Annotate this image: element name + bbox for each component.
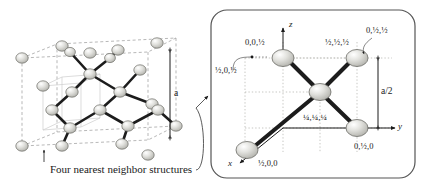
atom-label-quarter-quarter-quarter: ¼,¼,¼: [303, 113, 327, 122]
figure-caption: Four nearest neighbor structures: [50, 164, 192, 175]
lattice-constant-label: a: [174, 89, 178, 99]
bottom-right-atom: [346, 120, 368, 137]
inner-sub-cell: [43, 74, 100, 130]
top-left-atom: [272, 50, 294, 67]
atom-label-0-half-half: 0,½,½: [366, 26, 388, 35]
y-axis-label: y: [398, 122, 402, 131]
x-axis-label: x: [228, 159, 232, 168]
atom-label-0-half-0: 0,½,0: [354, 142, 374, 151]
atom-label-half-0-half: ½,0,½: [215, 66, 237, 75]
atom-label-0-0-half: 0,0,½: [245, 38, 265, 47]
bottom-left-atom: [236, 142, 258, 159]
callout-arrow-to-detail: [196, 96, 208, 170]
top-right-atom: [346, 50, 368, 67]
half-lattice-constant-label: a/2: [381, 87, 393, 97]
tetrahedral-bonds: [250, 58, 357, 150]
z-axis-label: z: [289, 20, 293, 29]
figure-canvas: [0, 0, 421, 188]
atom-label-half-half-half: ½,½,½: [325, 38, 349, 47]
lattice-atoms: [16, 38, 182, 160]
atom-label-half-0-0: ½,0,0: [258, 159, 278, 168]
crystal-structure-figure: a Four nearest neighbor structures 0,0,½…: [0, 0, 421, 188]
center-atom: [309, 84, 331, 101]
